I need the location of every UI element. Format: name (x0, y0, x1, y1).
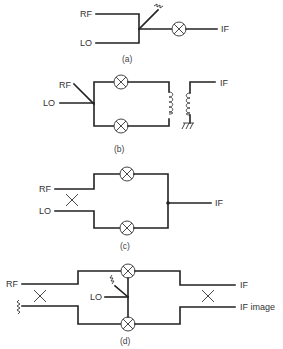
mixer-icon (120, 221, 134, 235)
mixer-icon (121, 317, 135, 331)
transformer-secondary-icon (186, 93, 190, 115)
hybrid-icon (202, 290, 214, 302)
rf-label: RF (39, 184, 51, 194)
transformer-primary-icon (169, 92, 173, 114)
termination-icon (110, 275, 114, 284)
diagram-b: RF LO IF (b) (43, 75, 229, 154)
mixer-icon (114, 75, 128, 89)
termination-icon (17, 300, 20, 314)
lo-label: LO (80, 38, 92, 48)
hybrid-icon (66, 194, 78, 206)
caption-a: (a) (122, 54, 133, 64)
if-label: IF (221, 24, 230, 34)
lo-label: LO (90, 292, 102, 302)
rf-label: RF (80, 9, 92, 19)
if-label: IF (240, 280, 249, 290)
lo-label: LO (43, 98, 55, 108)
if-label: IF (215, 198, 224, 208)
termination-icon (154, 4, 163, 8)
caption-d: (d) (120, 336, 131, 346)
caption-c: (c) (120, 241, 130, 251)
mixer-icon (172, 22, 186, 36)
lo-label: LO (39, 206, 51, 216)
diagram-c: RF LO IF (c) (39, 167, 224, 251)
hybrid-icon (34, 290, 46, 302)
mixer-icon (114, 119, 128, 133)
if-image-label: IF image (240, 302, 275, 312)
if-label: IF (220, 78, 229, 88)
rf-label: RF (59, 80, 71, 90)
rf-label: RF (6, 279, 18, 289)
ground-icon (182, 123, 194, 129)
mixer-icon (120, 167, 134, 181)
diagram-d: RF LO IF IF image (d) (6, 264, 275, 346)
mixer-icon (121, 264, 135, 278)
diagram-a: RF LO IF (a) (80, 4, 230, 64)
mixer-diagrams: RF LO IF (a) RF LO IF (b) (0, 0, 283, 349)
caption-b: (b) (114, 144, 125, 154)
